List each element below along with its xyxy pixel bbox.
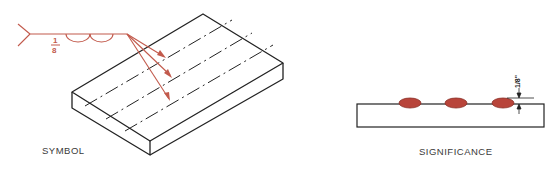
size-fraction: 1 8: [51, 36, 60, 55]
dimension-callout: 1/8": [507, 75, 534, 114]
welding-symbol: [18, 24, 170, 99]
dimension-text: 1/8": [514, 75, 521, 88]
symbol-label: SYMBOL: [42, 145, 85, 156]
arrowheads: [157, 50, 172, 101]
weld-beads: [399, 98, 514, 108]
fraction-denominator: 8: [52, 46, 57, 55]
weld-centerlines: [85, 20, 273, 131]
isometric-plate: [72, 14, 283, 155]
significance-label: SIGNIFICANCE: [419, 146, 493, 157]
fraction-numerator: 1: [53, 36, 58, 45]
